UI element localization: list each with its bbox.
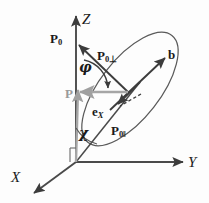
p-gray-label: P <box>65 87 73 100</box>
p0-perp-label: P0⊥ <box>97 49 117 64</box>
p0-label-base: P <box>50 31 58 46</box>
p0-label-subscript: 0 <box>58 37 62 47</box>
ex-label: eX <box>92 105 103 120</box>
p0-parallel-label-subscript: 0‖ <box>119 129 126 139</box>
y-axis-label: Y <box>188 155 196 170</box>
p0-parallel-label: P0‖ <box>111 124 126 139</box>
x-axis-line <box>34 162 76 193</box>
p0-label: P0 <box>50 32 62 47</box>
b-label: b <box>168 48 175 61</box>
vector-diagram: Z Y X P0 P0⊥ b eX P0‖ P φ χ <box>0 0 209 203</box>
p0-parallel-line <box>76 82 140 162</box>
p0-perp-label-base: P <box>97 48 105 63</box>
diagram-canvas <box>0 0 209 203</box>
p0-parallel-label-base: P <box>111 123 119 138</box>
ex-label-subscript: X <box>98 110 104 120</box>
phi-angle-label: φ <box>79 60 92 74</box>
x-axis-label: X <box>11 170 20 185</box>
z-axis-label: Z <box>82 12 90 27</box>
chi-angle-label: χ <box>79 126 88 140</box>
p0-perp-label-subscript: 0⊥ <box>105 54 117 64</box>
